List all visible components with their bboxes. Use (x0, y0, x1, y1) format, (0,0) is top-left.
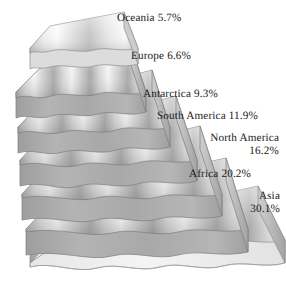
pyramid-chart: Oceania 5.7% Europe 6.6% Antarctica 9.3%… (0, 0, 286, 301)
slab-oceania[interactable] (30, 12, 138, 69)
slab-stack-graphic (0, 0, 286, 301)
